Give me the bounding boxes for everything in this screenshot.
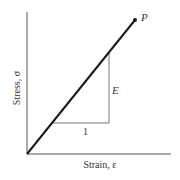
point-p-label: P: [140, 11, 148, 23]
point-p-marker: [133, 18, 137, 22]
slope-rise-label: E: [111, 84, 119, 96]
elastic-line: [27, 20, 135, 154]
stress-strain-diagram: P E 1 Strain, ε Stress, σ: [0, 0, 180, 180]
x-axis-label: Strain, ε: [83, 159, 116, 170]
y-axis-label: Stress, σ: [11, 70, 22, 105]
slope-run-label: 1: [83, 126, 88, 137]
